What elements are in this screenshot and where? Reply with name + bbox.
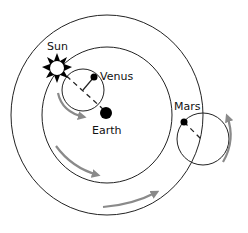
- sun-icon: [42, 53, 72, 83]
- venus-motion-arrow-icon: [58, 93, 84, 117]
- venus-dot: [91, 74, 98, 81]
- mars-dot: [181, 119, 188, 126]
- mars-motion-arrow-icon: [223, 116, 231, 162]
- mars-radius-dashed-line: [184, 122, 201, 139]
- inner-orbit-motion-arrow-icon: [56, 146, 98, 175]
- mars-label: Mars: [174, 100, 201, 113]
- venus-label: Venus: [100, 70, 133, 83]
- earth-dot: [100, 107, 112, 119]
- sun-label: Sun: [47, 40, 68, 53]
- earth-label: Earth: [92, 124, 122, 137]
- geocentric-diagram: Sun Venus Earth Mars: [0, 0, 248, 233]
